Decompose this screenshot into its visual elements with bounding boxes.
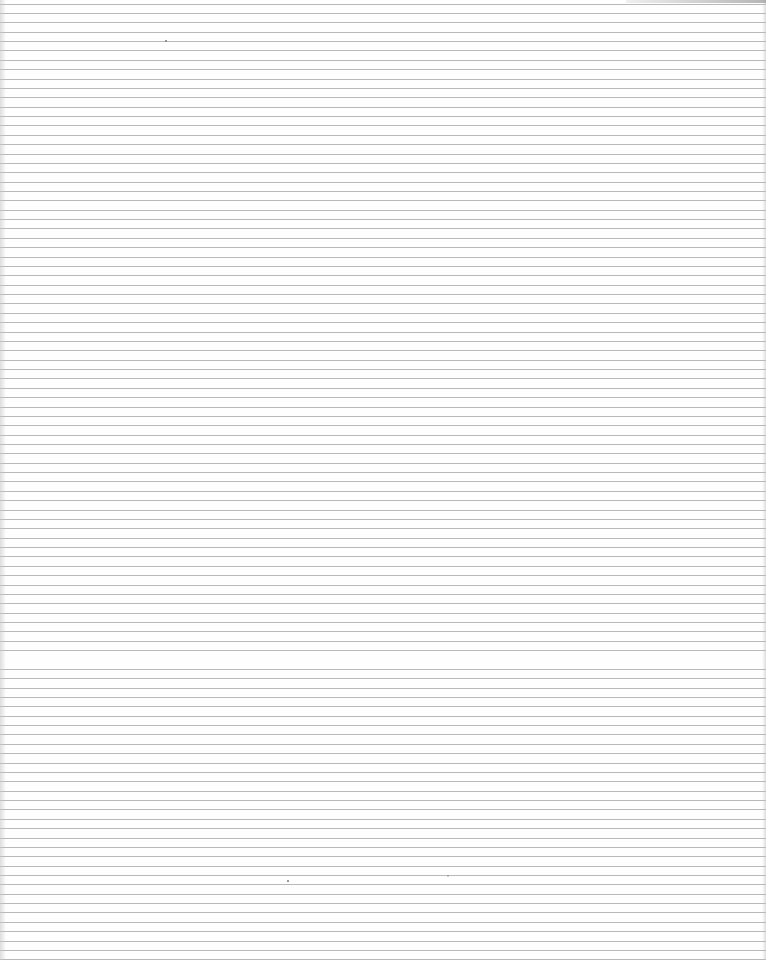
paper-speck <box>447 875 449 877</box>
paper-speck <box>165 40 167 42</box>
scan-edge-shadow-left <box>0 0 6 960</box>
ruled-paper-sheet: ruled-paper-scan <box>0 0 766 960</box>
paper-speck <box>287 880 289 882</box>
scan-edge-shadow-right <box>762 0 766 960</box>
scan-corner-shadow <box>626 0 766 3</box>
